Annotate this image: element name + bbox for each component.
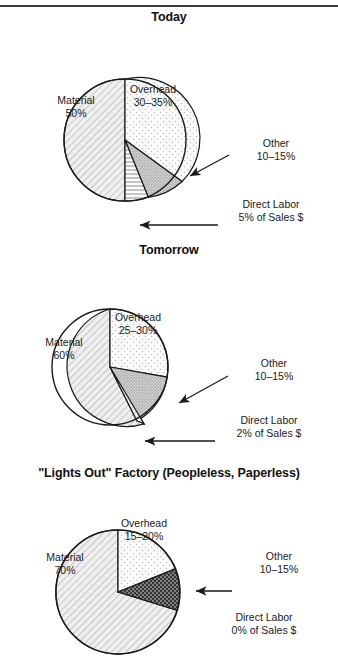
label-direct-labor-value-lights-out: 0% of Sales $: [206, 624, 322, 637]
label-overhead-value-lights-out: 15–20%: [104, 530, 184, 543]
label-other-name-lights-out: Other: [244, 550, 314, 563]
label-material-name-lights-out: Material: [25, 551, 105, 564]
label-overhead-lights-out: Overhead 15–20%: [104, 517, 184, 542]
label-direct-labor-value-tomorrow: 2% of Sales $: [211, 427, 327, 440]
label-other-name-today: Other: [241, 137, 311, 150]
label-material-value-today: 50%: [36, 107, 116, 120]
label-overhead-name-tomorrow: Overhead: [98, 311, 178, 324]
label-overhead-name-lights-out: Overhead: [104, 517, 184, 530]
label-material-name-tomorrow: Material: [24, 336, 104, 349]
label-direct-labor-today: Direct Labor 5% of Sales $: [213, 198, 329, 223]
figure-page: g p: [0, 0, 338, 668]
label-direct-labor-name-today: Direct Labor: [213, 198, 329, 211]
label-other-value-tomorrow: 10–15%: [239, 370, 309, 383]
chart-title-today: Today: [0, 10, 338, 24]
label-material-name-today: Material: [36, 94, 116, 107]
header-divider-rule: [0, 5, 338, 7]
chart-title-tomorrow: Tomorrow: [0, 243, 338, 257]
label-direct-labor-value-today: 5% of Sales $: [213, 211, 329, 224]
label-material-value-tomorrow: 60%: [24, 349, 104, 362]
label-other-tomorrow: Other 10–15%: [239, 357, 309, 382]
label-other-lights-out: Other 10–15%: [244, 550, 314, 575]
label-direct-labor-name-lights-out: Direct Labor: [206, 611, 322, 624]
label-material-today: Material 50%: [36, 94, 116, 119]
label-overhead-today: Overhead 30–35%: [113, 83, 193, 108]
label-material-value-lights-out: 70%: [25, 564, 105, 577]
label-direct-labor-name-tomorrow: Direct Labor: [211, 414, 327, 427]
label-overhead-value-tomorrow: 25–30%: [98, 324, 178, 337]
label-other-today: Other 10–15%: [241, 137, 311, 162]
chart-today: Today Material 50% Overhead 30–35% O: [0, 10, 338, 240]
label-overhead-value-today: 30–35%: [113, 96, 193, 109]
label-direct-labor-tomorrow: Direct Labor 2% of Sales $: [211, 414, 327, 439]
other-arrow-tomorrow: [179, 376, 228, 403]
chart-lights-out: "Lights Out" Factory (Peopleless, Paperl…: [0, 466, 338, 668]
label-material-lights-out: Material 70%: [25, 551, 105, 576]
label-overhead-name-today: Overhead: [113, 83, 193, 96]
label-other-value-today: 10–15%: [241, 150, 311, 163]
label-other-value-lights-out: 10–15%: [244, 563, 314, 576]
chart-title-lights-out: "Lights Out" Factory (Peopleless, Paperl…: [0, 466, 338, 480]
label-material-tomorrow: Material 60%: [24, 336, 104, 361]
chart-tomorrow: Tomorrow Material 60% Overhead 25–30% Ot…: [0, 243, 338, 468]
label-other-name-tomorrow: Other: [239, 357, 309, 370]
label-direct-labor-lights-out: Direct Labor 0% of Sales $: [206, 611, 322, 636]
label-overhead-tomorrow: Overhead 25–30%: [98, 311, 178, 336]
